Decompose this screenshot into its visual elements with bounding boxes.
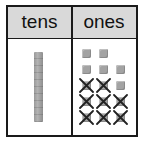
cross-mark-icon [113, 94, 128, 109]
cross-mark-icon [96, 110, 111, 125]
unit-cube-icon [116, 81, 125, 90]
unit-cube-icon [82, 49, 91, 58]
cross-mark-icon [79, 94, 94, 109]
cross-mark-icon [96, 78, 111, 93]
unit-cube-icon [116, 65, 125, 74]
crossed-cube-icon [116, 113, 125, 122]
cross-mark-icon [96, 94, 111, 109]
crossed-cube-icon [82, 81, 91, 90]
crossed-cube-icon [82, 113, 91, 122]
ones-header: ones [72, 7, 136, 38]
unit-cube-icon [99, 49, 108, 58]
cross-mark-icon [113, 110, 128, 125]
column-divider [71, 7, 73, 135]
cross-mark-icon [79, 78, 94, 93]
crossed-cube-icon [99, 97, 108, 106]
cross-mark-icon [79, 110, 94, 125]
crossed-cube-icon [116, 97, 125, 106]
unit-cube-icon [99, 65, 108, 74]
tens-header: tens [8, 7, 71, 38]
crossed-cube-icon [82, 97, 91, 106]
tens-rod-icon [34, 52, 43, 122]
crossed-cube-icon [99, 81, 108, 90]
unit-cube-icon [82, 65, 91, 74]
place-value-chart: tens ones [6, 5, 138, 137]
crossed-cube-icon [99, 113, 108, 122]
